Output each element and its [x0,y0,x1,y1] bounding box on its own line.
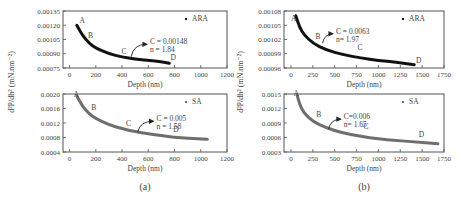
point-label-d: D [419,130,425,139]
legend-label: ARA [192,14,208,23]
y-tick-label: 0.00108 [258,8,281,16]
x-tick-label: 1000 [371,155,386,163]
x-tick-label: 1250 [393,155,408,163]
y-tick-label: 0.0012 [262,105,282,113]
x-axis-label: Depth (nm) [128,164,163,173]
fit-n-label: n = 1.58 [157,122,182,131]
legend-label: ARA [409,14,425,23]
y-tick-label: 0.0020 [41,91,61,99]
point-label-a: A [79,16,85,25]
y-tick-label: 0.0016 [41,105,61,113]
x-tick-label: 1000 [194,155,209,163]
point-label-b: B [88,31,93,40]
point-label-d: D [171,53,177,62]
x-tick-label: 400 [117,155,128,163]
point-label-a: A [73,90,79,99]
x-tick-label: 1500 [415,155,430,163]
legend-marker [402,18,404,20]
y-tick-label: 0.00096 [258,65,281,73]
fit-n-label: n= 1.65 [344,120,367,129]
data-curve [77,96,208,140]
x-tick-label: 600 [143,71,154,79]
y-tick-label: 0.0008 [41,134,61,142]
x-tick-label: 750 [351,155,362,163]
x-axis-label: Depth (nm) [128,80,163,89]
legend-label: SA [409,97,419,106]
x-tick-label: 500 [329,71,340,79]
x-tick-label: 250 [308,155,319,163]
y-tick-label: 0.00120 [37,22,60,30]
x-tick-label: 250 [308,71,319,79]
fit-n-label: n = 1.84 [150,45,175,54]
legend-marker [185,101,187,103]
x-tick-label: 200 [91,155,102,163]
point-label-a: A [294,89,300,98]
annotation-arrow [138,121,154,132]
point-label-c: C [357,43,362,52]
legend-marker [185,18,187,20]
plot-a-top: 0.000750.000900.001050.001200.0013502004… [37,8,234,90]
y-tick-label: 0.0009 [262,120,282,128]
plot-a-bottom: 0.00040.00080.00120.00160.00200200400600… [41,90,235,173]
caption-b: (b) [358,181,370,193]
point-label-a: A [291,14,297,23]
x-tick-label: 800 [169,71,180,79]
plot-b-top: 0.000960.000990.001020.001050.0010802505… [258,8,451,90]
y-axis-label-left: d²P/dh² (mN.nm⁻²) [7,51,16,113]
legend-marker [402,101,404,103]
x-tick-label: 500 [329,155,340,163]
annotation-arrow [322,34,332,44]
point-label-b: B [316,110,321,119]
y-tick-label: 0.00090 [37,50,60,58]
x-tick-label: 1200 [220,155,235,163]
x-tick-label: 0 [68,71,72,79]
x-tick-label: 400 [117,71,128,79]
x-tick-label: 800 [169,155,180,163]
x-tick-label: 600 [143,155,154,163]
x-tick-label: 0 [68,155,72,163]
y-tick-label: 0.00105 [37,36,60,44]
annotation-arrow [131,44,147,56]
point-label-b: B [315,32,320,41]
figure-canvas: 0.000750.000900.001050.001200.0013502004… [0,0,474,200]
fit-n-label: n= 1.97 [336,35,359,44]
x-axis-label: Depth (nm) [347,164,382,173]
legend-label: SA [192,97,202,106]
y-tick-label: 0.00102 [258,36,281,44]
x-tick-label: 1000 [371,71,386,79]
point-label-b: B [91,103,96,112]
x-tick-label: 1500 [415,71,430,79]
y-tick-label: 0.00105 [258,22,281,30]
x-tick-label: 1750 [437,155,452,163]
x-tick-label: 1250 [393,71,408,79]
x-tick-label: 200 [91,71,102,79]
y-tick-label: 0.00099 [258,50,281,58]
point-label-d: D [416,56,422,65]
y-tick-label: 0.0004 [41,149,61,157]
y-tick-label: 0.00135 [37,8,60,16]
y-tick-label: 0.00075 [37,65,60,73]
x-tick-label: 0 [289,155,293,163]
x-tick-label: 0 [289,71,293,79]
x-tick-label: 1750 [437,71,452,79]
y-tick-label: 0.0012 [41,120,61,128]
point-label-c: C [121,47,126,56]
x-tick-label: 750 [351,71,362,79]
y-axis-label-right: d²P/dh² (mN.nm⁻²) [236,51,245,113]
y-tick-label: 0.0015 [262,91,282,99]
y-tick-label: 0.0006 [262,134,282,142]
plot-b-bottom: 0.00030.00060.00090.00120.00150250500750… [262,89,452,173]
y-tick-label: 0.0003 [262,149,282,157]
x-axis-label: Depth (nm) [347,80,382,89]
point-label-c: C [126,119,131,128]
x-tick-label: 1200 [220,71,235,79]
x-tick-label: 1000 [194,71,209,79]
caption-a: (a) [139,181,150,193]
